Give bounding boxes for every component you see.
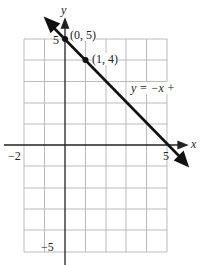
point-label-0-5: (0, 5) — [70, 29, 96, 41]
x-axis-label: x — [191, 138, 196, 150]
y-axis-label: y — [61, 4, 66, 16]
equation-label: y = −x + — [129, 82, 177, 94]
point-1-4 — [83, 57, 89, 63]
y-axis-arrow-icon — [62, 19, 69, 28]
graph-canvas — [0, 0, 200, 265]
point-label-1-4: (1, 4) — [92, 53, 118, 65]
point-0-5 — [62, 36, 68, 42]
y-tick-min: −5 — [41, 241, 54, 253]
y-tick-max: 5 — [53, 34, 59, 46]
x-axis-arrow-icon — [178, 142, 187, 149]
x-tick-max: 5 — [163, 150, 169, 162]
x-tick-min: −2 — [8, 150, 21, 162]
